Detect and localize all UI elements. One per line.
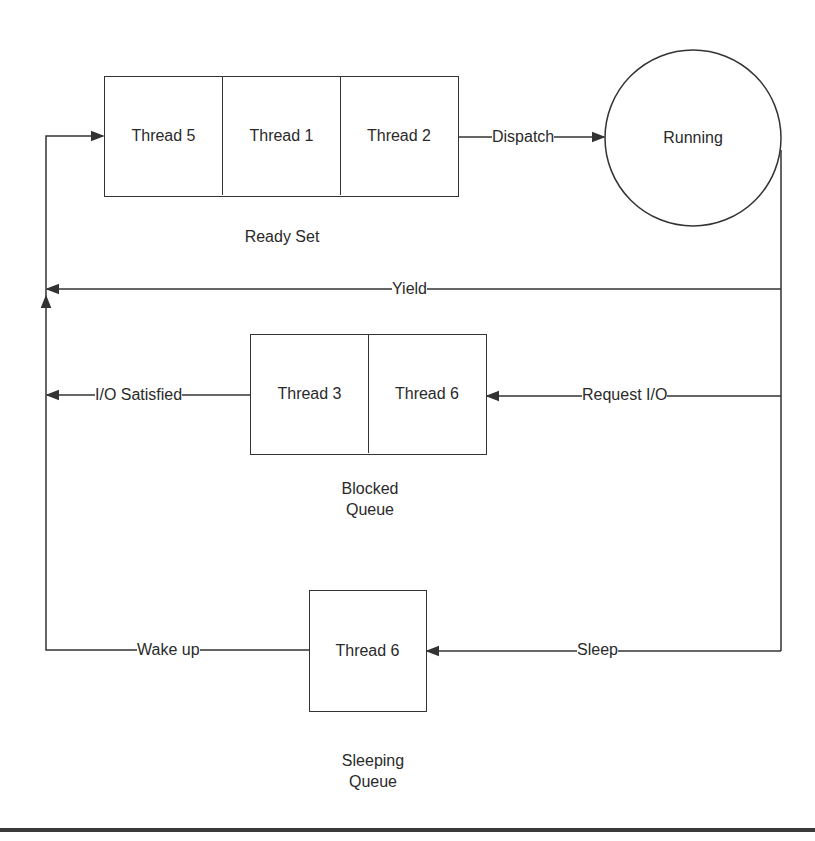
yield-label: Yield <box>392 280 427 298</box>
ready-thread-cell: Thread 1 <box>223 77 341 195</box>
blocked-queue-caption-line2: Queue <box>310 499 430 520</box>
sleeping-queue-caption-line1: Sleeping <box>313 750 433 771</box>
return-to-ready-arrow <box>46 136 103 296</box>
running-state-label: Running <box>640 128 746 148</box>
ready-thread-cell: Thread 5 <box>105 77 223 195</box>
dispatch-label: Dispatch <box>492 128 554 146</box>
blocked-queue-caption-line1: Blocked <box>310 478 430 499</box>
blocked-queue-caption: Blocked Queue <box>310 478 430 520</box>
blocked-thread-cell: Thread 6 <box>369 335 485 453</box>
blocked-thread-cell: Thread 3 <box>251 335 369 453</box>
sleeping-queue-box: Thread 6 <box>309 590 427 712</box>
thread-state-diagram: Thread 5 Thread 1 Thread 2 Ready Set Run… <box>0 0 815 841</box>
bottom-rule-divider <box>0 828 815 832</box>
ready-set-caption: Ready Set <box>222 226 342 247</box>
ready-thread-cell: Thread 2 <box>341 77 457 195</box>
sleep-label: Sleep <box>577 641 618 659</box>
request-io-label: Request I/O <box>582 386 667 404</box>
sleeping-queue-caption: Sleeping Queue <box>313 750 433 792</box>
ready-set-box: Thread 5 Thread 1 Thread 2 <box>104 76 459 197</box>
wake-up-label: Wake up <box>137 641 200 659</box>
blocked-queue-box: Thread 3 Thread 6 <box>250 334 487 455</box>
sleeping-queue-caption-line2: Queue <box>313 771 433 792</box>
io-satisfied-label: I/O Satisfied <box>95 386 182 404</box>
sleeping-thread-cell: Thread 6 <box>310 591 425 710</box>
